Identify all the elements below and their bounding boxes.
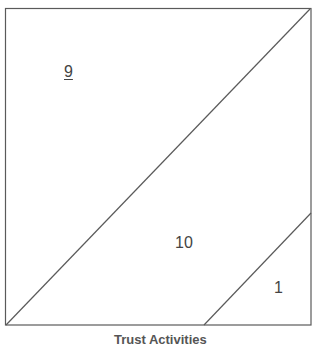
main-diagonal-line (6, 9, 310, 325)
partitioned-square-diagram (0, 0, 317, 347)
region-label-upper-left: 9 (64, 64, 73, 80)
region-label-lower-right: 1 (274, 280, 283, 296)
lower-diagonal-line (204, 213, 311, 325)
region-label-middle: 10 (175, 235, 193, 251)
x-axis-label: Trust Activities (114, 333, 207, 346)
